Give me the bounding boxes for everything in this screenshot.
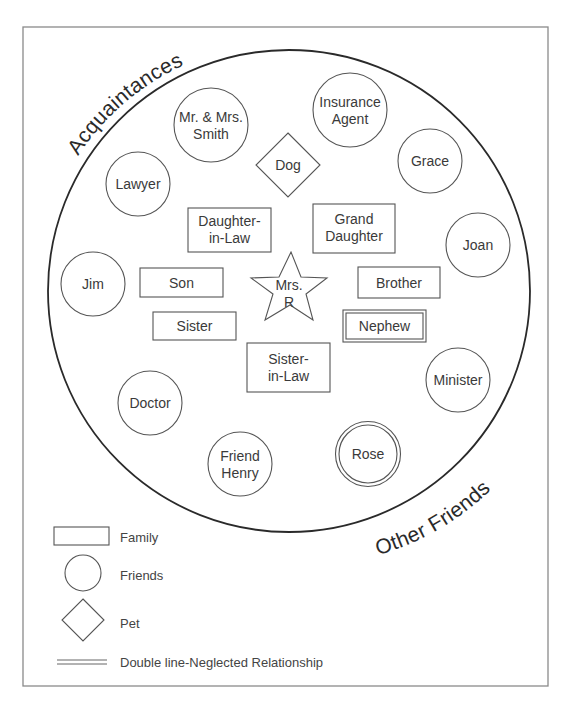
- center-label: Mrs.: [275, 277, 302, 293]
- node-label: Son: [169, 275, 194, 291]
- friend-circle: [208, 432, 272, 496]
- legend-label: Double line-Neglected Relationship: [120, 655, 323, 670]
- friend-node-joan: Joan: [446, 213, 510, 277]
- circle-icon: [65, 555, 101, 591]
- node-label: Minister: [433, 372, 482, 388]
- node-label: Grace: [411, 153, 449, 169]
- node-label: in-Law: [268, 368, 310, 384]
- friend-node-jim: Jim: [61, 252, 125, 316]
- node-label: Nephew: [359, 318, 411, 334]
- node-label: Lawyer: [115, 176, 160, 192]
- friend-node-mr-mrs-smith: Mr. & Mrs. Smith: [174, 88, 248, 162]
- node-label: Daughter-: [198, 213, 261, 229]
- family-node-son: Son: [140, 268, 223, 297]
- relationship-diagram: Acquaintances Other Friends Mr. & Mrs. S…: [0, 0, 568, 709]
- node-label: Doctor: [129, 395, 171, 411]
- family-node-nephew: Nephew: [343, 310, 426, 342]
- friend-node-friend-henry: Friend Henry: [208, 432, 272, 496]
- node-label: Daughter: [325, 228, 383, 244]
- center-label: R: [284, 294, 294, 310]
- rectangle-icon: [54, 527, 109, 545]
- node-label: Mr. & Mrs.: [179, 109, 243, 125]
- friend-node-doctor: Doctor: [118, 371, 182, 435]
- family-node-brother: Brother: [358, 267, 440, 298]
- node-label: in-Law: [209, 230, 251, 246]
- node-label: Henry: [221, 465, 258, 481]
- node-label: Agent: [332, 111, 369, 127]
- friend-node-lawyer: Lawyer: [106, 152, 170, 216]
- family-node-sister: Sister: [153, 312, 236, 340]
- node-label: Insurance: [319, 94, 381, 110]
- friend-node-rose: Rose: [336, 422, 401, 487]
- friend-circle: [174, 88, 248, 162]
- friend-node-grace: Grace: [398, 129, 462, 193]
- legend-label: Friends: [120, 568, 164, 583]
- family-node-sister-in-law: Sister- in-Law: [247, 343, 330, 392]
- node-label: Sister-: [268, 351, 309, 367]
- node-label: Grand: [335, 211, 374, 227]
- legend-label: Family: [120, 530, 159, 545]
- node-label: Friend: [220, 448, 260, 464]
- node-label: Joan: [463, 237, 493, 253]
- node-label: Jim: [82, 276, 104, 292]
- node-label: Brother: [376, 275, 422, 291]
- legend-label: Pet: [120, 616, 140, 631]
- legend-item-family: Family: [54, 527, 159, 545]
- friend-node-insurance-agent: Insurance Agent: [313, 73, 387, 147]
- node-label: Smith: [193, 126, 229, 142]
- family-node-grand-daughter: Grand Daughter: [313, 204, 395, 253]
- node-label: Dog: [275, 157, 301, 173]
- friend-node-minister: Minister: [426, 348, 490, 412]
- node-label: Sister: [177, 318, 213, 334]
- friend-circle: [313, 73, 387, 147]
- node-label: Rose: [352, 446, 385, 462]
- family-node-daughter-in-law: Daughter- in-Law: [188, 208, 271, 252]
